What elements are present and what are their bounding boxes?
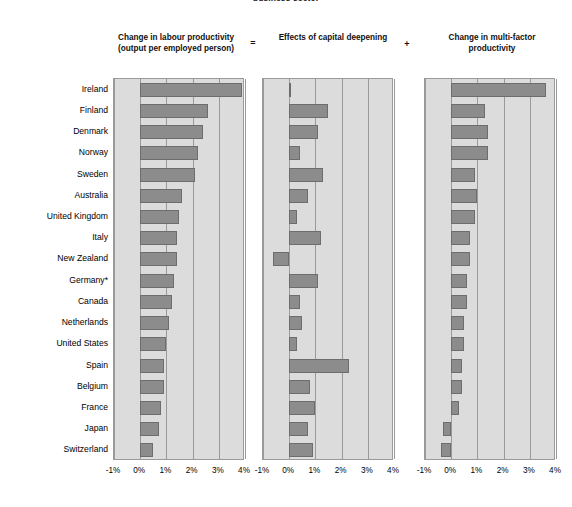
- bar: [140, 168, 195, 182]
- category-label: Norway: [4, 147, 108, 157]
- bar: [289, 422, 307, 436]
- gridline: [394, 79, 395, 459]
- bar: [451, 316, 464, 330]
- bar: [451, 146, 488, 160]
- bar: [451, 104, 485, 118]
- bar: [140, 231, 177, 245]
- bar: [451, 231, 469, 245]
- category-axis-labels: IrelandFinlandDenmarkNorwaySwedenAustral…: [2, 78, 108, 460]
- panel-3-title-line1: Change in multi-factor: [418, 33, 566, 44]
- bar: [140, 189, 182, 203]
- category-label: Sweden: [4, 169, 108, 179]
- bar: [140, 146, 198, 160]
- gridline: [263, 79, 264, 459]
- bar: [140, 337, 166, 351]
- bar: [289, 189, 307, 203]
- gridline: [219, 79, 220, 459]
- bar: [140, 125, 203, 139]
- category-label: Australia: [4, 190, 108, 200]
- bar: [140, 210, 179, 224]
- bar: [289, 104, 328, 118]
- bar: [289, 274, 318, 288]
- bar: [289, 316, 302, 330]
- bar: [451, 189, 477, 203]
- gridline: [368, 79, 369, 459]
- gridline: [504, 79, 505, 459]
- x-axis-panel-3: -1%0%1%2%3%4%: [424, 463, 555, 479]
- bar: [289, 337, 297, 351]
- bar: [451, 380, 461, 394]
- bar: [140, 83, 242, 97]
- panel-1-header: Change in labour productivity (output pe…: [96, 33, 256, 54]
- bar: [140, 380, 164, 394]
- bar: [451, 125, 488, 139]
- bar: [289, 83, 291, 97]
- bar: [140, 359, 164, 373]
- category-label: United States: [4, 338, 108, 348]
- category-label: Spain: [4, 360, 108, 370]
- bar: [451, 252, 469, 266]
- figure-suptitle: business sector: [0, 0, 572, 3]
- bar: [451, 401, 459, 415]
- bar: [289, 443, 313, 457]
- panel-multi-factor-productivity: [424, 78, 555, 460]
- category-label: Ireland: [4, 84, 108, 94]
- figure-canvas: business sector Change in labour product…: [0, 0, 572, 507]
- gridline: [530, 79, 531, 459]
- bar: [451, 83, 545, 97]
- bar: [289, 210, 297, 224]
- panel-3-header: Change in multi-factor productivity: [418, 33, 566, 54]
- bar: [451, 274, 467, 288]
- category-label: Japan: [4, 423, 108, 433]
- bar: [289, 168, 323, 182]
- bar: [140, 104, 208, 118]
- x-tick-label: 4%: [378, 466, 408, 475]
- panel-2-header: Effects of capital deepening: [258, 33, 408, 44]
- bar: [451, 337, 464, 351]
- bar: [289, 231, 320, 245]
- x-tick-label: 4%: [540, 466, 570, 475]
- category-label: Switzerland: [4, 444, 108, 454]
- category-label: Belgium: [4, 381, 108, 391]
- category-label: Italy: [4, 232, 108, 242]
- gridline: [556, 79, 557, 459]
- bar: [451, 359, 461, 373]
- category-label: France: [4, 402, 108, 412]
- panel-3-title-line2: productivity: [418, 44, 566, 55]
- bar: [140, 422, 158, 436]
- plus-operator: +: [400, 39, 414, 49]
- category-label: Canada: [4, 296, 108, 306]
- bar: [140, 295, 171, 309]
- panel-2-title-line1: Effects of capital deepening: [258, 33, 408, 44]
- bar: [140, 316, 169, 330]
- gridline: [342, 79, 343, 459]
- panel-labour-productivity: [113, 78, 244, 460]
- bar: [140, 443, 153, 457]
- panel-capital-deepening: [262, 78, 393, 460]
- bar: [140, 401, 161, 415]
- category-label: Netherlands: [4, 317, 108, 327]
- bar: [451, 295, 467, 309]
- category-label: United Kingdom: [4, 211, 108, 221]
- category-label: Germany*: [4, 275, 108, 285]
- bar: [289, 359, 349, 373]
- bar: [451, 168, 475, 182]
- bar: [289, 401, 315, 415]
- category-label: Denmark: [4, 126, 108, 136]
- gridline: [245, 79, 246, 459]
- category-label: New Zealand: [4, 253, 108, 263]
- bar: [441, 443, 451, 457]
- gridline: [114, 79, 115, 459]
- bar: [289, 125, 318, 139]
- bar: [289, 146, 299, 160]
- bar: [140, 252, 177, 266]
- bar: [273, 252, 289, 266]
- bar: [289, 295, 299, 309]
- x-axis-panel-2: -1%0%1%2%3%4%: [262, 463, 393, 479]
- bar: [443, 422, 451, 436]
- panel-1-title-line1: Change in labour productivity: [96, 33, 256, 44]
- bar: [289, 380, 310, 394]
- x-axis-panel-1: -1%0%1%2%3%4%: [113, 463, 244, 479]
- bar: [140, 274, 174, 288]
- bar: [451, 210, 475, 224]
